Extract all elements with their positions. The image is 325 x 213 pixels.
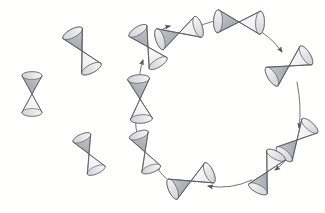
- node-5[interactable]: [247, 147, 287, 197]
- node-7[interactable]: [128, 128, 162, 176]
- node-3[interactable]: [263, 44, 316, 88]
- isolated-1[interactable]: [22, 72, 42, 117]
- node-6[interactable]: [164, 161, 217, 201]
- arrow-3: [297, 82, 300, 128]
- figure-canvas: [0, 0, 325, 213]
- isolated-2[interactable]: [61, 24, 103, 77]
- node-1[interactable]: [153, 15, 206, 51]
- ring-nodes: [127, 10, 320, 201]
- bowtie-ring-diagram: [0, 0, 325, 213]
- isolated-nodes: [22, 24, 107, 177]
- node-8[interactable]: [127, 74, 152, 124]
- node-2[interactable]: [213, 10, 265, 35]
- isolated-3[interactable]: [71, 131, 106, 178]
